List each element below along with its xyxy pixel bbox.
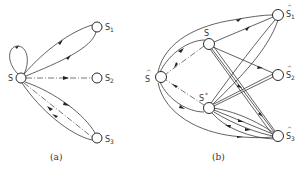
label-a-s2-sub: 2	[110, 77, 114, 84]
node-b-sstar	[204, 103, 215, 114]
edge-a-s-to-s3-dashed	[24, 83, 92, 137]
label-b-sstar: S	[199, 94, 204, 103]
label-b-s3hat-sub: 3	[291, 135, 295, 142]
node-b-s	[204, 39, 215, 50]
arrowhead-icon	[63, 102, 70, 106]
node-a-s1	[92, 22, 102, 32]
arrowhead-icon	[178, 48, 184, 53]
caption-b: (b)	[212, 152, 225, 162]
arrowhead-icon	[237, 136, 243, 138]
label-b-s2hat-sub: 2	[291, 74, 295, 81]
edge-a-s-to-s3	[25, 82, 95, 133]
edge-a-s-to-s1	[24, 25, 92, 74]
node-b-s3hat	[273, 131, 284, 142]
label-a-s1-sub: 1	[110, 26, 114, 33]
node-b-shat	[156, 72, 167, 83]
label-b-s1hat-hat: ^	[287, 3, 292, 10]
edge-b-sstar-to-s1hat-2	[213, 20, 278, 104]
caption-a: (a)	[50, 152, 62, 162]
arrowhead-icon	[47, 106, 53, 111]
arrowhead-icon	[225, 125, 231, 128]
label-b-s2hat-hat: ^	[287, 64, 292, 71]
label-b-s: S	[204, 29, 209, 38]
edge-b-s-to-s1hat	[214, 17, 273, 42]
label-b-sstar-sup: *	[205, 91, 208, 98]
arrowhead-icon	[63, 76, 69, 80]
edge-b-s-to-s3hat-1	[212, 49, 274, 132]
node-b-s1hat	[273, 10, 284, 21]
label-b-shat: S	[145, 75, 150, 84]
edge-b-sstar-to-s2hat-2	[214, 74, 273, 104]
edge-a-s-self-loop	[10, 46, 28, 74]
arrowhead-icon	[238, 119, 244, 122]
label-a-s: S	[8, 74, 13, 83]
edge-b-sstar-to-s3hat-3	[213, 108, 274, 133]
edge-a-s1-to-s	[26, 32, 96, 76]
edge-b-s-to-s3hat-3	[214, 47, 275, 131]
edge-b-sstar-to-s2hat	[214, 77, 273, 106]
node-a-s2	[92, 73, 102, 83]
node-a-s3	[92, 133, 102, 143]
label-b-s1hat-sub: 1	[291, 13, 295, 20]
panel-a: S S 1 S 2 S 3 (a)	[8, 22, 114, 162]
edge-a-s3-to-s	[22, 83, 92, 140]
state-transition-diagrams: S S 1 S 2 S 3 (a)	[0, 0, 299, 169]
node-a-s	[16, 73, 26, 83]
edge-b-s-to-shat	[166, 46, 204, 74]
label-a-s3-sub: 3	[110, 138, 114, 145]
panel-b: ^ S S S * ^ S 1 ^ S 2 ^ S 3 (b)	[145, 3, 295, 162]
label-b-shat-hat: ^	[146, 68, 151, 75]
node-b-s2hat	[273, 70, 284, 81]
label-b-s3hat-hat: ^	[287, 125, 292, 132]
edge-b-shat-to-s	[160, 40, 205, 72]
arrowhead-icon	[172, 84, 178, 88]
